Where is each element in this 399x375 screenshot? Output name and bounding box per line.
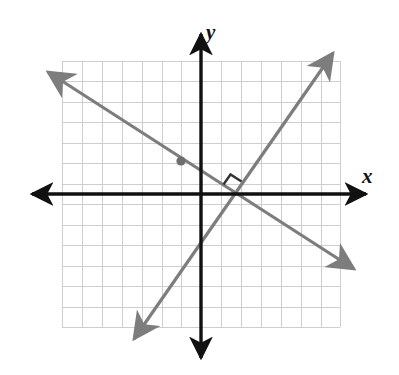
marked-point [176,156,185,165]
ascending-line [134,53,333,339]
y-axis-label: y [203,20,216,44]
x-axis-label: x [361,164,373,188]
coordinate-graph-figure: y x [0,0,399,375]
graph-canvas: y x [0,0,399,375]
right-angle-mark [224,175,242,185]
